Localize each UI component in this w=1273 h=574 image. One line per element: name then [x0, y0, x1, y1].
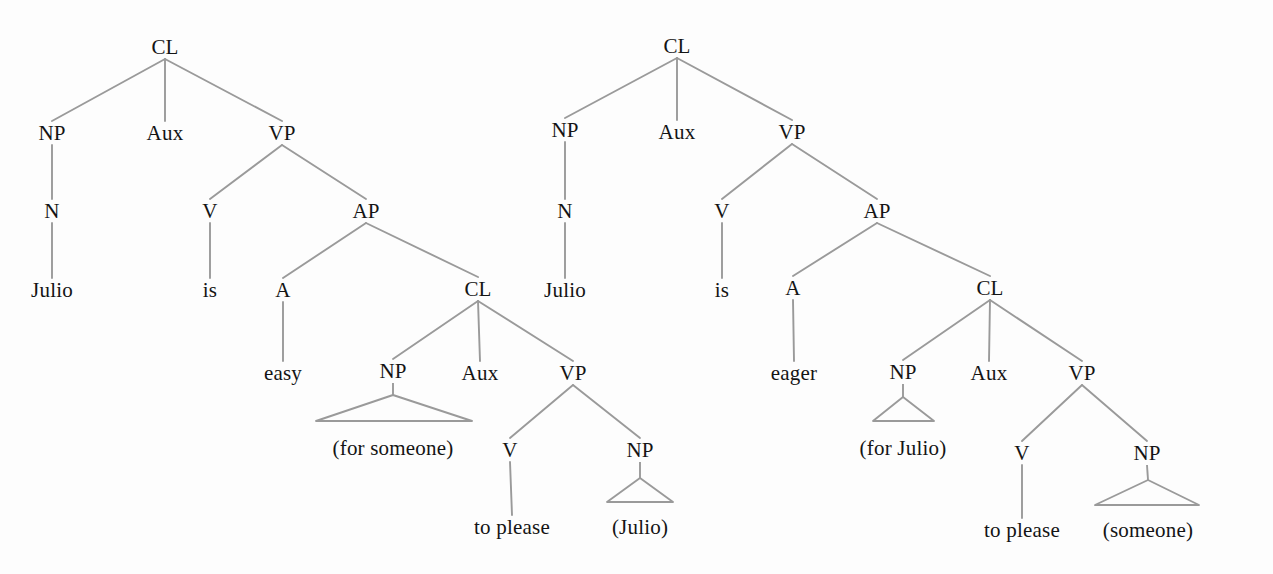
tree-edge: [1022, 385, 1082, 441]
tree-node-is: is: [203, 280, 217, 301]
tree-node-v: V: [1014, 443, 1029, 464]
tree-edge: [990, 300, 1082, 361]
tree-edge: [565, 58, 677, 118]
phrase-triangle: [873, 397, 934, 421]
tree-edge: [793, 223, 877, 276]
tree-node-np: NP: [551, 120, 578, 141]
tree-node-a: A: [785, 278, 800, 299]
tree-edge: [165, 59, 282, 121]
phrase-triangle: [607, 478, 673, 502]
tree-node-vp: VP: [268, 123, 295, 144]
tree-node-cl: CL: [464, 279, 491, 300]
tree-node-is: is: [715, 280, 729, 301]
tree-edge: [573, 385, 640, 438]
tree-edge: [1147, 465, 1148, 480]
tree-node-np: NP: [889, 362, 916, 383]
tree-node-to-please: to please: [474, 517, 550, 538]
tree-edge: [282, 145, 366, 199]
tree-node-n: N: [44, 201, 59, 222]
tree-edge: [510, 462, 512, 515]
tree-node-np: NP: [379, 361, 406, 382]
tree-node-cl: CL: [663, 36, 690, 57]
tree-node-julio: (Julio): [612, 517, 668, 538]
tree-edge: [989, 300, 990, 361]
tree-node-vp: VP: [1068, 363, 1095, 384]
tree-edge: [510, 385, 573, 438]
tree-node-v: V: [202, 201, 217, 222]
tree-node-np: NP: [626, 440, 653, 461]
tree-edge: [366, 223, 478, 277]
tree-edge: [903, 300, 990, 360]
tree-node-cl: CL: [976, 278, 1003, 299]
tree-edge: [722, 144, 792, 199]
tree-edge: [283, 223, 366, 278]
tree-node-aux: Aux: [971, 363, 1008, 384]
tree-edge: [478, 301, 480, 361]
tree-node-aux: Aux: [462, 363, 499, 384]
tree-node-aux: Aux: [659, 122, 696, 143]
tree-node-cl: CL: [151, 37, 178, 58]
tree-edge: [877, 223, 990, 276]
tree-node-easy: easy: [264, 363, 302, 384]
tree-node-aux: Aux: [147, 123, 184, 144]
tree-node-ap: AP: [863, 201, 890, 222]
tree-node-julio: Julio: [31, 280, 73, 301]
tree-node-someone: (someone): [1103, 520, 1193, 541]
tree-node-vp: VP: [778, 122, 805, 143]
tree-node-julio: Julio: [544, 280, 586, 301]
tree-node-v: V: [714, 201, 729, 222]
tree-node-vp: VP: [559, 363, 586, 384]
tree-node-for-someone: (for someone): [333, 438, 454, 459]
phrase-triangle: [316, 395, 472, 421]
tree-node-to-please: to please: [984, 520, 1060, 541]
tree-node-np: NP: [38, 123, 65, 144]
tree-edge: [793, 300, 794, 361]
tree-edge: [393, 301, 478, 359]
tree-node-eager: eager: [771, 363, 817, 384]
syntax-tree-figure: CLNPAuxVPNVAPJulioisACLeasyNPAuxVP(for s…: [0, 0, 1273, 574]
tree-node-np: NP: [1133, 443, 1160, 464]
tree-node-for-julio: (for Julio): [860, 438, 947, 459]
tree-edge: [677, 58, 792, 120]
tree-edge: [478, 301, 573, 361]
tree-node-a: A: [275, 280, 290, 301]
tree-edge: [1082, 385, 1147, 441]
tree-node-v: V: [502, 440, 517, 461]
tree-edge: [52, 59, 165, 121]
tree-edge: [210, 145, 282, 199]
tree-node-n: N: [557, 201, 572, 222]
tree-edge-layer: [0, 0, 1273, 574]
tree-node-ap: AP: [352, 201, 379, 222]
phrase-triangle: [1095, 480, 1199, 505]
tree-edge: [792, 144, 877, 199]
